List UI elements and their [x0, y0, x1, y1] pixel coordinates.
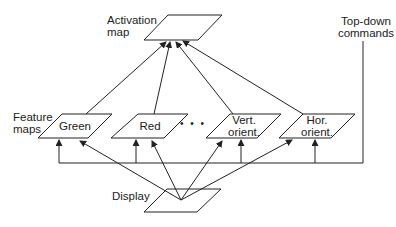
diagram-canvas: Activation map Top-down commands Feature…	[0, 0, 396, 227]
feature-maps-label-line1: Feature	[13, 111, 53, 123]
feature-maps-label-line2: maps	[13, 123, 53, 135]
vert-orient-line1: Vert.	[218, 114, 270, 126]
hor-orient-map-label: Hor. orient.	[291, 114, 343, 138]
top-down-commands-label: Top-down commands	[336, 15, 396, 39]
vert-orient-map-label: Vert. orient.	[218, 114, 270, 138]
top-down-label-line1: Top-down	[336, 15, 396, 27]
top-down-bus	[59, 41, 363, 163]
display-label: Display	[112, 190, 150, 202]
arrow-hor-to-activation	[183, 41, 303, 114]
arrow-display-to-hor	[181, 140, 292, 200]
activation-map-label-line1: Activation	[107, 14, 157, 26]
arrow-green-to-activation	[86, 42, 166, 114]
green-map-label: Green	[50, 120, 100, 132]
arrow-vert-to-activation	[176, 42, 233, 114]
display-shape	[144, 189, 221, 212]
activation-map-label: Activation map	[107, 14, 157, 38]
top-down-label-line2: commands	[336, 27, 396, 39]
vert-orient-line2: orient.	[218, 126, 270, 138]
ellipsis-dots: • • •	[180, 118, 206, 130]
red-map-label: Red	[124, 120, 176, 132]
arrow-red-to-activation	[154, 42, 170, 114]
activation-map-label-line2: map	[107, 26, 157, 38]
feature-maps-label: Feature maps	[13, 111, 53, 135]
arrow-display-to-vert	[181, 141, 222, 200]
hor-orient-line2: orient.	[291, 126, 343, 138]
hor-orient-line1: Hor.	[291, 114, 343, 126]
